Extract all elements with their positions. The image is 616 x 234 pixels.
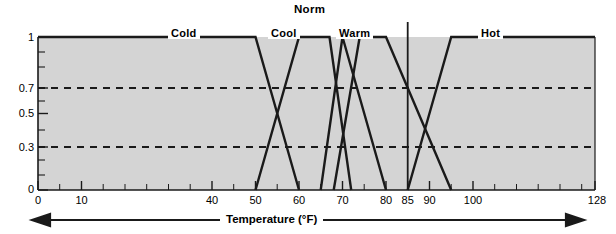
x-tick-label-70: 70 [323, 194, 363, 206]
y-tick-label-0-3: 0.3 [0, 141, 34, 153]
curve-label-cool: Cool [268, 27, 300, 39]
plot-background [38, 37, 595, 190]
x-tick-label-0: 0 [18, 194, 58, 206]
y-tick-label-1: 1 [0, 31, 34, 43]
curve-label-cold: Cold [168, 27, 200, 39]
y-tick-label-0-7: 0.7 [0, 82, 34, 94]
x-tick-label-90: 90 [410, 194, 450, 206]
x-tick-label-128: 128 [577, 194, 616, 206]
curve-label-warm: Warm [336, 27, 373, 39]
x-tick-label-100: 100 [453, 194, 493, 206]
curve-label-hot: Hot [478, 27, 503, 39]
y-tick-label-0-5: 0.5 [0, 107, 34, 119]
x-tick-label-40: 40 [192, 194, 232, 206]
membership-function-chart: Norm [0, 0, 616, 234]
x-tick-label-50: 50 [236, 194, 276, 206]
x-axis-title: Temperature (°F) [220, 213, 323, 225]
x-tick-label-10: 10 [62, 194, 102, 206]
x-tick-label-60: 60 [279, 194, 319, 206]
